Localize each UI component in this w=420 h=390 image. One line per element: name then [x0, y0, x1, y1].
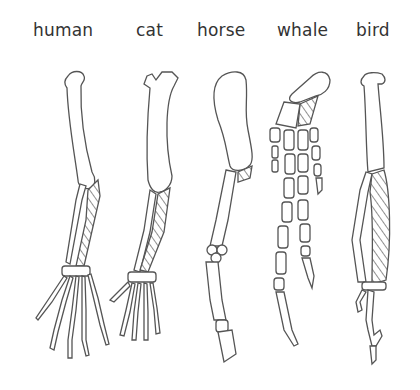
- human-forelimb: [36, 72, 109, 359]
- cat-humerus: [144, 72, 178, 192]
- cat-paw: [110, 272, 160, 340]
- bird-humerus: [361, 73, 385, 172]
- horse-forelimb: [206, 72, 252, 362]
- horse-radius: [210, 170, 236, 246]
- horse-hoof: [206, 245, 236, 362]
- forelimb-diagram: [0, 0, 420, 390]
- human-humerus: [65, 72, 95, 189]
- bird-ulna: [352, 172, 372, 282]
- horse-humerus: [214, 72, 252, 170]
- human-hand: [36, 266, 109, 358]
- whale-ulna: [276, 102, 300, 128]
- bird-radius: [370, 170, 390, 284]
- whale-flipper: [270, 72, 330, 346]
- cat-forelimb: [110, 72, 178, 340]
- bird-wing: [352, 73, 390, 364]
- whale-humerus: [290, 72, 330, 102]
- whale-digits: [270, 128, 322, 346]
- bird-hand: [356, 282, 386, 364]
